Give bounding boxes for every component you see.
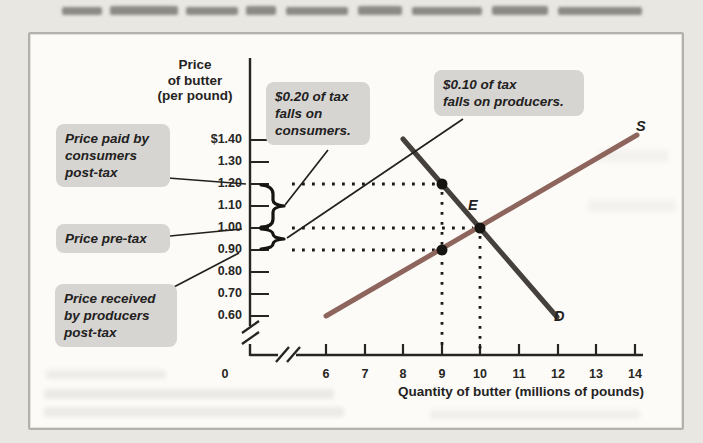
y-tick-label: 0.70 xyxy=(186,286,242,300)
y-tick-label: 1.00 xyxy=(186,220,242,234)
textbook-page: Price of butter (per pound) Quantity of … xyxy=(0,0,703,443)
x-tick-label: 11 xyxy=(504,367,534,381)
y-tick-label: 1.20 xyxy=(186,176,242,190)
demand-curve-label: D xyxy=(554,308,564,324)
y-axis-title: Price of butter (per pound) xyxy=(136,57,254,104)
y-tick-label: 1.10 xyxy=(186,198,242,212)
x-axis-title: Quantity of butter (millions of pounds) xyxy=(376,384,666,399)
x-tick-label: 14 xyxy=(620,367,650,381)
y-tick-label: 0.60 xyxy=(186,308,242,322)
callout-tax-consumers: $0.20 of tax falls on consumers. xyxy=(266,82,370,145)
equilibrium-label: E xyxy=(468,197,478,213)
x-tick-label: 9 xyxy=(427,367,457,381)
x-tick-label: 12 xyxy=(543,367,573,381)
callout-price-paid-consumers: Price paid by consumers post-tax xyxy=(56,124,170,187)
producer-price-point xyxy=(437,245,448,256)
leader-tax-consumers xyxy=(285,150,328,205)
x-tick-label: 6 xyxy=(311,367,341,381)
x-axis-ticks xyxy=(326,344,635,355)
x-tick-label: 8 xyxy=(388,367,418,381)
producer-tax-brace xyxy=(261,229,284,249)
y-tick-label: $1.40 xyxy=(186,132,242,146)
consumer-price-point xyxy=(437,179,448,190)
equilibrium-point xyxy=(475,223,486,234)
y-tick-label: 0.90 xyxy=(186,242,242,256)
x-tick-label: 10 xyxy=(465,367,495,381)
origin-label: 0 xyxy=(212,367,238,381)
supply-curve-label: S xyxy=(636,118,646,134)
callout-tax-producers: $0.10 of tax falls on producers. xyxy=(434,70,584,116)
y-tick-label: 1.30 xyxy=(186,154,242,168)
callout-price-received-producers: Price received by producers post-tax xyxy=(55,284,177,347)
dotted-guide-lines xyxy=(292,184,480,352)
x-tick-label: 13 xyxy=(581,367,611,381)
callout-price-pretax: Price pre-tax xyxy=(56,224,170,253)
y-tick-label: 0.80 xyxy=(186,264,242,278)
x-tick-label: 7 xyxy=(350,367,380,381)
